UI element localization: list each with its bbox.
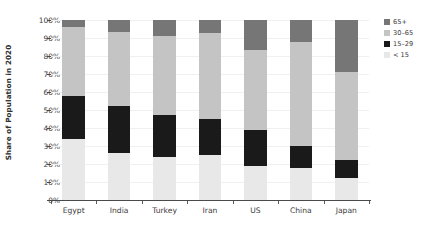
bar-group[interactable] — [335, 20, 358, 200]
x-axis-tick-mark — [278, 201, 279, 204]
bar-segment[interactable] — [335, 178, 358, 200]
bar-segment[interactable] — [244, 166, 267, 200]
stacked-bar-chart: Share of Population in 2020 0%10%20%30%4… — [0, 0, 434, 238]
plot-area — [51, 20, 369, 200]
bar-segment[interactable] — [335, 160, 358, 178]
legend-swatch-icon — [384, 41, 390, 47]
x-axis-tick-mark — [369, 201, 370, 204]
legend: 65+30–6515–29< 15 — [384, 17, 434, 61]
y-axis-title-label: Share of Population in 2020 — [5, 45, 14, 161]
bar-segment[interactable] — [199, 119, 222, 155]
x-axis-tick-mark — [142, 201, 143, 204]
bar-segment[interactable] — [199, 33, 222, 119]
x-axis-tick-mark — [187, 201, 188, 204]
legend-item-label: 15–29 — [393, 40, 413, 48]
bar-segment[interactable] — [153, 20, 176, 36]
bar-stack — [62, 20, 85, 200]
bar-segment[interactable] — [153, 157, 176, 200]
bar-segment[interactable] — [199, 20, 222, 33]
bar-stack — [244, 20, 267, 200]
bar-segment[interactable] — [199, 155, 222, 200]
bar-segment[interactable] — [290, 42, 313, 146]
bar-segment[interactable] — [108, 32, 131, 107]
bar-stack — [290, 20, 313, 200]
bar-segment[interactable] — [335, 72, 358, 160]
legend-swatch-icon — [384, 19, 390, 25]
bar-group[interactable] — [62, 20, 85, 200]
bar-segment[interactable] — [62, 96, 85, 139]
bar-stack — [335, 20, 358, 200]
x-axis-tick-label: Egypt — [63, 206, 85, 215]
legend-item[interactable]: 65+ — [384, 17, 434, 27]
bar-segment[interactable] — [62, 139, 85, 200]
legend-item-label: < 15 — [393, 51, 409, 59]
bar-group[interactable] — [244, 20, 267, 200]
bar-segment[interactable] — [108, 106, 131, 153]
bar-segment[interactable] — [244, 20, 267, 50]
x-axis-tick-label: US — [250, 206, 260, 215]
bar-group[interactable] — [290, 20, 313, 200]
bar-stack — [199, 20, 222, 200]
x-axis-tick-mark — [51, 201, 52, 204]
bar-stack — [153, 20, 176, 200]
x-axis-tick-mark — [96, 201, 97, 204]
bar-segment[interactable] — [108, 153, 131, 200]
x-axis-tick-label: Iran — [203, 206, 218, 215]
y-axis-title: Share of Population in 2020 — [0, 0, 18, 205]
bar-group[interactable] — [199, 20, 222, 200]
bar-segment[interactable] — [62, 20, 85, 27]
bar-segment[interactable] — [153, 36, 176, 115]
x-axis-tick-mark — [233, 201, 234, 204]
bar-stack — [108, 20, 131, 200]
bar-segment[interactable] — [290, 168, 313, 200]
legend-item[interactable]: 30–65 — [384, 28, 434, 38]
bar-segment[interactable] — [244, 50, 267, 130]
bar-segment[interactable] — [62, 27, 85, 95]
x-axis-tick-label: Japan — [336, 206, 357, 215]
bar-segment[interactable] — [290, 20, 313, 42]
legend-swatch-icon — [384, 30, 390, 36]
legend-item[interactable]: 15–29 — [384, 39, 434, 49]
x-axis-tick-label: China — [290, 206, 312, 215]
bar-segment[interactable] — [108, 20, 131, 32]
legend-swatch-icon — [384, 52, 390, 58]
x-axis-tick-label: India — [110, 206, 129, 215]
bar-segment[interactable] — [290, 146, 313, 168]
bar-group[interactable] — [153, 20, 176, 200]
bar-segment[interactable] — [335, 20, 358, 72]
legend-item-label: 65+ — [393, 18, 407, 26]
legend-item[interactable]: < 15 — [384, 50, 434, 60]
x-axis-tick-label: Turkey — [152, 206, 177, 215]
bar-segment[interactable] — [153, 115, 176, 156]
legend-item-label: 30–65 — [393, 29, 413, 37]
bar-group[interactable] — [108, 20, 131, 200]
bar-segment[interactable] — [244, 130, 267, 166]
x-axis-tick-mark — [324, 201, 325, 204]
